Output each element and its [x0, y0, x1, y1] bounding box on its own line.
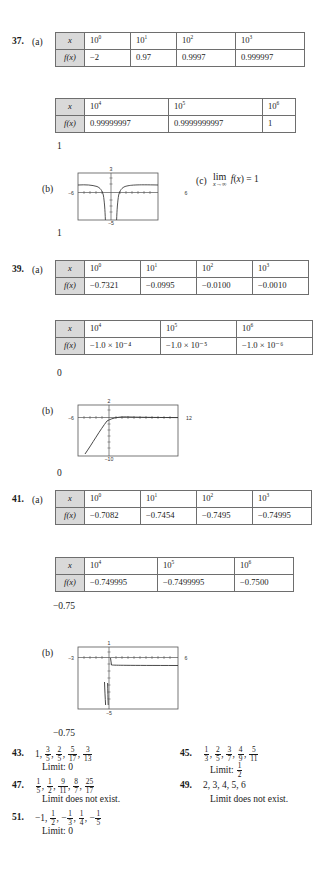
- term-fraction: 511: [249, 746, 258, 762]
- x-value-cell: 106: [235, 558, 294, 575]
- row-header-x: x: [56, 558, 85, 575]
- row-header-x: x: [56, 99, 85, 116]
- graph-39-ymax-label: 2: [108, 398, 111, 404]
- term: 1: [35, 749, 40, 759]
- f-value-cell: −0.0995: [141, 277, 197, 294]
- x-value-cell: 100: [85, 33, 131, 50]
- answer-number-45: 45.: [180, 748, 192, 758]
- graph-37-ymin-label: −5: [108, 220, 114, 226]
- x-value-cell: 101: [131, 33, 177, 50]
- problem-39-table-2: x 104 105 106 f(x) −1.0 × 10⁻⁴ −1.0 × 10…: [55, 320, 313, 355]
- problem-39-stray-value-bottom: 0: [57, 468, 62, 478]
- term-fraction: 49: [238, 746, 244, 762]
- graph-37-ymax-label: 3: [110, 166, 113, 172]
- f-value-cell: 1: [263, 115, 296, 132]
- f-value-cell: −0.7499995: [158, 574, 235, 591]
- x-value-cell: 101: [141, 261, 197, 278]
- f-value-cell: −0.0100: [197, 277, 253, 294]
- f-value-cell: 0.999997: [236, 49, 305, 66]
- x-value-cell: 102: [177, 33, 236, 50]
- table-row: f(x) −2 0.97 0.9997 0.999997: [56, 49, 305, 66]
- table-row: x 100 101 102 103: [56, 33, 305, 50]
- term-fraction: 517: [68, 746, 77, 762]
- answer-number-47: 47.: [12, 780, 24, 790]
- problem-39-part-b-label: (b): [42, 406, 53, 416]
- problem-41-table-2: x 104 105 106 f(x) −0.749995 −0.7499995 …: [55, 557, 294, 592]
- problem-37-limit-expression: lim x→∞ f(x) = 1: [213, 172, 259, 187]
- graph-39-xmin-label: −6: [68, 415, 74, 421]
- term-fraction: 37: [226, 746, 232, 762]
- term-fraction: 15: [95, 810, 101, 826]
- graph-39-xmax-label: 12: [186, 415, 192, 421]
- term-fraction: 14: [79, 810, 85, 826]
- term-fraction: 13: [67, 810, 73, 826]
- term-fraction: 87: [73, 778, 79, 794]
- problem-37-part-b-label: (b): [42, 184, 53, 194]
- problem-number-41: 41.: [12, 494, 24, 504]
- x-value-cell: 100: [85, 261, 141, 278]
- answer-47-terms: 15, 12, 911, 87, 2517: [35, 778, 95, 794]
- limit-fraction: 12: [237, 762, 243, 778]
- table-row: f(x) −0.749995 −0.7499995 −0.7500: [56, 574, 294, 591]
- problem-37-table-1: x 100 101 102 103 f(x) −2 0.97 0.9997 0.…: [55, 32, 305, 67]
- f-value-cell: 0.97: [131, 49, 177, 66]
- graph-37-xmin-label: −6: [68, 190, 74, 196]
- answer-49-limit: Limit does not exist.: [210, 794, 288, 804]
- x-value-cell: 100: [85, 491, 141, 508]
- graph-37-xmax-label: 6: [185, 190, 188, 196]
- answer-number-43: 43.: [12, 748, 24, 758]
- table-row: x 104 105 106: [56, 321, 313, 338]
- problem-number-37: 37.: [12, 36, 24, 46]
- problem-37-part-a-label: (a): [32, 37, 43, 47]
- term-fraction: 12: [47, 778, 53, 794]
- problem-37-part-c-label: (c): [196, 176, 207, 186]
- table-row: x 100 101 102 103: [56, 491, 312, 508]
- table-row: x 100 101 102 103: [56, 261, 309, 278]
- problem-37-stray-value-bottom: 1: [57, 228, 62, 238]
- graph-41-xmax-label: 6: [185, 655, 188, 661]
- row-header-fx: f(x): [56, 507, 85, 524]
- f-value-cell: −0.749995: [85, 574, 158, 591]
- row-header-x: x: [56, 261, 85, 278]
- answer-47-limit: Limit does not exist.: [42, 794, 120, 804]
- answer-key-page: 37. (a) x 100 101 102 103 f(x) −2 0.97 0…: [0, 0, 323, 892]
- problem-41-graph: 1 −3 6 −5: [64, 638, 199, 716]
- x-value-cell: 105: [158, 558, 235, 575]
- row-header-fx: f(x): [56, 49, 85, 66]
- f-value-cell: 0.99999997: [85, 115, 169, 132]
- row-header-fx: f(x): [56, 277, 85, 294]
- problem-37-stray-value-top: 1: [57, 141, 62, 151]
- x-value-cell: 105: [169, 99, 263, 116]
- x-value-cell: 102: [197, 491, 253, 508]
- x-value-cell: 104: [85, 321, 161, 338]
- row-header-fx: f(x): [56, 337, 85, 354]
- x-value-cell: 101: [141, 491, 197, 508]
- limit-operator: lim x→∞: [213, 172, 226, 187]
- term-fraction: 313: [83, 746, 92, 762]
- problem-41-table-1: x 100 101 102 103 f(x) −0.7082 −0.7454 −…: [55, 490, 312, 525]
- f-value-cell: −1.0 × 10⁻⁴: [85, 337, 161, 354]
- f-value-cell: 0.9999999997: [169, 115, 263, 132]
- x-value-cell: 106: [237, 321, 313, 338]
- problem-37-table-2: x 104 105 106 f(x) 0.99999997 0.99999999…: [55, 98, 296, 133]
- problem-37-graph: 3 −6 6 −5: [64, 164, 194, 226]
- answer-51-limit: Limit: 0: [42, 826, 73, 836]
- problem-41-stray-value-top: −0.75: [53, 601, 75, 611]
- answer-number-49: 49.: [180, 780, 192, 790]
- row-header-fx: f(x): [56, 574, 85, 591]
- f-value-cell: −2: [85, 49, 131, 66]
- f-value-cell: −0.7500: [235, 574, 294, 591]
- row-header-x: x: [56, 491, 85, 508]
- table-row: f(x) −0.7321 −0.0995 −0.0100 −0.0010: [56, 277, 309, 294]
- term-fraction: 911: [58, 778, 67, 794]
- limit-body: f(x) = 1: [231, 174, 259, 184]
- answer-49-terms: 2, 3, 4, 5, 6: [203, 780, 246, 790]
- f-value-cell: −0.74995: [253, 507, 312, 524]
- x-value-cell: 103: [253, 261, 309, 278]
- problem-39-part-a-label: (a): [32, 265, 43, 275]
- graph-41-ymax-label: 1: [108, 640, 111, 646]
- term-fraction: 13: [204, 746, 210, 762]
- row-header-fx: f(x): [56, 115, 85, 132]
- x-value-cell: 104: [85, 99, 169, 116]
- problem-number-39: 39.: [12, 264, 24, 274]
